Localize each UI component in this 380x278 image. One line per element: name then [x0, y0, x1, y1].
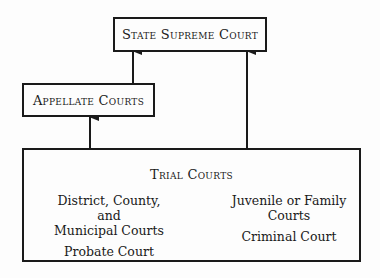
appellate-courts-box: Appellate Courts — [22, 83, 155, 117]
appellate-courts-label: Appellate Courts — [24, 93, 153, 108]
state-supreme-court-label: State Supreme Court — [115, 27, 265, 42]
court-item: Criminal Court — [224, 229, 354, 244]
trial-courts-box: Trial Courts District, County, and Munic… — [22, 148, 361, 262]
court-item: Municipal Courts — [44, 223, 174, 238]
court-item: and — [44, 208, 174, 223]
trial-right-column: Juvenile or Family Courts Criminal Court — [224, 193, 354, 244]
state-supreme-court-box: State Supreme Court — [113, 17, 267, 52]
court-item: District, County, — [44, 193, 174, 208]
trial-left-column: District, County, and Municipal Courts P… — [44, 193, 174, 259]
court-item: Juvenile or Family — [224, 193, 354, 208]
court-item: Courts — [224, 208, 354, 223]
trial-courts-label: Trial Courts — [24, 167, 359, 182]
court-item: Probate Court — [44, 244, 174, 259]
